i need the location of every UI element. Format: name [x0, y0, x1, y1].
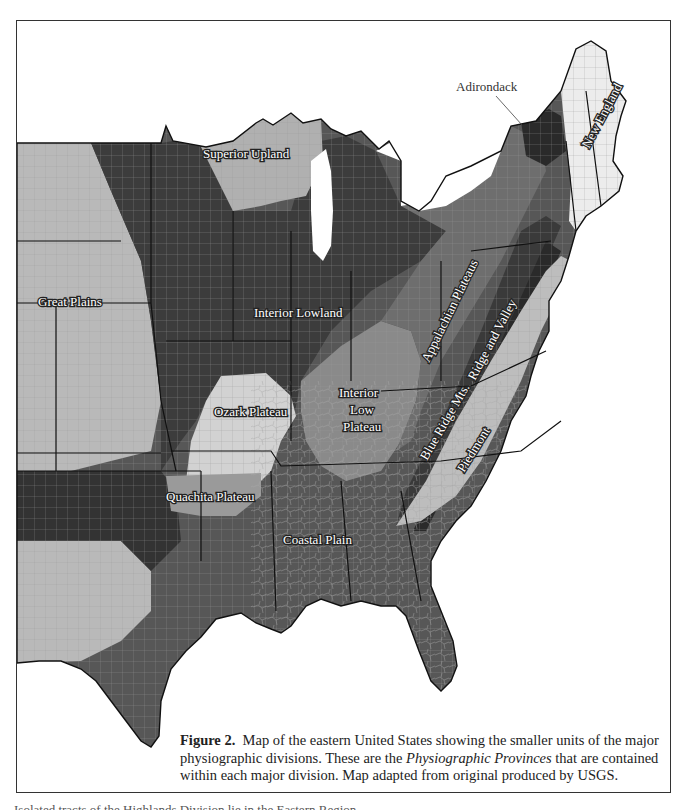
- label-adirondack: Adirondack: [456, 79, 518, 94]
- adirondack-leader-line: [496, 96, 522, 125]
- caption-italic-term: Physiographic Provinces: [406, 750, 552, 766]
- label-interior-low-plateau-1: Interior: [339, 385, 379, 400]
- label-great-plains: Great Plains: [38, 294, 102, 309]
- physiographic-map: Adirondack New England Superior Upland G…: [17, 21, 671, 793]
- label-superior-upland: Superior Upland: [203, 146, 290, 161]
- figure-caption: Figure 2. Map of the eastern United Stat…: [180, 732, 660, 785]
- figure-number: Figure 2.: [180, 732, 235, 748]
- label-ozark-plateau: Ozark Plateau: [214, 404, 288, 419]
- label-interior-low-plateau-2: Low: [350, 402, 374, 417]
- label-interior-low-plateau-3: Plateau: [343, 419, 382, 434]
- label-quachita-plateau: Quachita Plateau: [166, 489, 255, 504]
- map-frame: Adirondack New England Superior Upland G…: [16, 20, 671, 793]
- lake-michigan: [311, 149, 333, 261]
- label-interior-lowland: Interior Lowland: [254, 305, 343, 320]
- land-mass: [17, 21, 671, 793]
- label-coastal-plain: Coastal Plain: [283, 532, 352, 547]
- cut-off-body-text: Isolated tracts of the Highlands Divisio…: [14, 800, 684, 810]
